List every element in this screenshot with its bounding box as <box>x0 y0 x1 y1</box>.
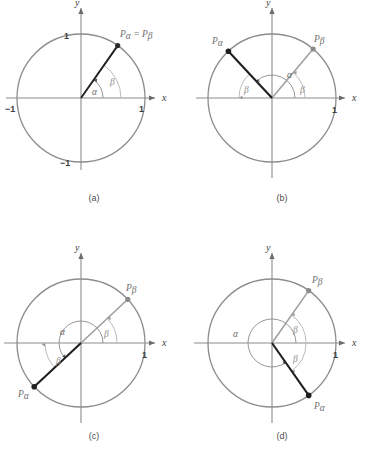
panel-b: x y 1 α β β Pα Pβ (b) <box>188 0 376 232</box>
arc-beta-left-arrowhead <box>239 96 243 100</box>
angle-label-beta-upper: β <box>292 325 298 335</box>
x-axis-arrowhead <box>339 340 345 345</box>
point-p-alpha <box>31 384 37 390</box>
tick-y-bottom: −1 <box>60 158 70 168</box>
tick-y-top: 1 <box>64 31 69 41</box>
y-axis-label: y <box>265 242 271 253</box>
point-label-p-beta: Pβ <box>125 283 137 295</box>
y-axis-arrowhead <box>269 253 274 259</box>
angle-label-beta-left: β <box>243 85 249 95</box>
point-p-alpha <box>226 48 232 54</box>
x-axis-label: x <box>161 92 167 103</box>
tick-x-left: −1 <box>5 104 15 114</box>
point-label-p-alpha: Pα <box>211 36 224 48</box>
arc-beta-left <box>45 343 55 368</box>
panel-c-diagram: x y 1 α β β Pβ Pα <box>0 231 188 463</box>
ray-p-beta <box>272 49 313 98</box>
point-p-alpha <box>306 393 312 399</box>
point-p-alpha-beta <box>115 43 120 48</box>
tick-x-right: 1 <box>333 350 338 360</box>
point-label-p-alpha-eq-p-beta: Pα = Pβ <box>119 29 153 41</box>
panel-d-diagram: x y 1 α β β Pβ Pα <box>188 231 376 463</box>
point-label-p-alpha: Pα <box>17 389 30 401</box>
point-p-beta <box>306 288 311 293</box>
ray-p-alpha <box>272 343 309 395</box>
caption-c: (c) <box>0 431 188 441</box>
y-axis-label: y <box>265 0 271 8</box>
caption-a: (a) <box>0 193 188 203</box>
x-axis-arrowhead <box>149 340 155 345</box>
angle-label-alpha: α <box>233 329 239 339</box>
ray-p-beta <box>272 291 309 343</box>
point-label-p-alpha: Pα <box>313 401 326 413</box>
panel-c: x y 1 α β β Pβ Pα (c) <box>0 231 188 463</box>
x-axis-label: x <box>161 337 167 348</box>
angle-label-beta-left: β <box>55 356 61 366</box>
point-p-beta <box>311 46 316 51</box>
y-axis-arrowhead <box>78 253 83 259</box>
angle-label-alpha: α <box>60 327 66 337</box>
y-axis-label: y <box>74 0 80 8</box>
arc-beta-right <box>107 318 117 343</box>
ray-p-alpha <box>81 46 118 98</box>
angle-label-beta-right: β <box>299 85 305 95</box>
angle-label-beta-right: β <box>103 329 109 339</box>
panel-d: x y 1 α β β Pβ Pα (d) <box>188 231 376 463</box>
angle-label-beta-lower: β <box>292 354 298 364</box>
angle-label-beta: β <box>109 77 115 87</box>
panel-a: x y 1 −1 1 −1 α β Pα = Pβ (a) <box>0 0 188 232</box>
y-axis-label: y <box>74 242 80 253</box>
x-axis-arrowhead <box>339 95 345 100</box>
tick-x-right: 1 <box>139 104 144 114</box>
figure-root: x y 1 −1 1 −1 α β Pα = Pβ (a) <box>0 0 376 463</box>
x-axis-label: x <box>351 92 357 103</box>
y-axis-arrowhead <box>78 8 83 14</box>
point-label-p-beta: Pβ <box>311 275 323 287</box>
x-axis-label: x <box>351 337 357 348</box>
tick-x-right: 1 <box>142 350 147 360</box>
y-axis-arrowhead <box>269 8 274 14</box>
tick-x-right: 1 <box>332 105 337 115</box>
angle-label-alpha: α <box>92 87 98 97</box>
x-axis-arrowhead <box>149 95 155 100</box>
point-label-p-beta: Pβ <box>313 34 325 46</box>
ray-p-alpha <box>228 51 272 98</box>
point-p-beta <box>125 297 130 302</box>
caption-b: (b) <box>188 193 376 203</box>
caption-d: (d) <box>188 431 376 441</box>
